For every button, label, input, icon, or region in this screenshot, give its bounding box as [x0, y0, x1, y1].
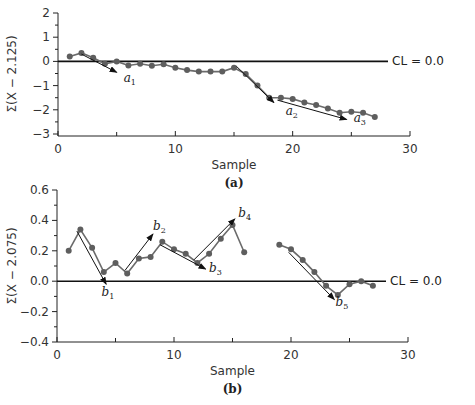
data-point: [208, 69, 214, 75]
data-point: [231, 65, 237, 71]
annotation-label: b3: [209, 261, 222, 277]
y-tick-label: −3: [32, 127, 50, 141]
data-point: [172, 65, 178, 71]
y-tick-label: 0.4: [30, 213, 49, 227]
y-tick-label: −0.4: [20, 335, 49, 349]
data-point: [66, 248, 72, 254]
x-axis-title: Sample: [212, 158, 257, 172]
annotation-arrow: [77, 231, 106, 284]
data-point: [196, 69, 202, 75]
data-point: [77, 227, 83, 233]
chart-canvas: 210−1−2−30102030Sample(a)Σ(X − 2.125)CL …: [0, 0, 475, 405]
y-tick-label: 2: [42, 6, 50, 20]
chart-panel-b: 0.60.40.20.0−0.2−0.40102030Sample(b)Σ(X …: [5, 183, 442, 396]
data-point: [149, 63, 155, 69]
y-tick-label: 0: [42, 54, 50, 68]
x-tick-label: 10: [168, 142, 183, 156]
annotation-label: b5: [335, 295, 348, 311]
data-point: [243, 71, 249, 77]
x-tick-label: 20: [285, 142, 300, 156]
panel-label: (b): [223, 382, 243, 396]
annotation-arrow: [160, 245, 206, 269]
y-tick-label: −1: [32, 79, 50, 93]
data-point: [89, 245, 95, 251]
x-tick-label: 10: [166, 348, 181, 362]
data-point: [148, 254, 154, 260]
x-tick-label: 30: [402, 142, 417, 156]
x-tick-label: 0: [54, 142, 62, 156]
data-point: [113, 260, 119, 266]
data-point: [311, 269, 317, 275]
data-point: [337, 110, 343, 116]
cusum-figure: 210−1−2−30102030Sample(a)Σ(X − 2.125)CL …: [0, 0, 475, 405]
center-line-label: CL = 0.0: [392, 54, 444, 68]
chart-panel-a: 210−1−2−30102030Sample(a)Σ(X − 2.125)CL …: [5, 6, 444, 190]
data-point: [206, 251, 212, 257]
data-point: [347, 281, 353, 287]
data-point: [219, 69, 225, 75]
data-point: [360, 110, 366, 116]
y-tick-label: 1: [42, 30, 50, 44]
data-point: [137, 61, 143, 67]
x-tick-label: 20: [283, 348, 298, 362]
annotation-arrow: [194, 219, 235, 260]
center-line-label: CL = 0.0: [390, 274, 442, 288]
annotation-label: a2: [286, 104, 298, 120]
data-point: [288, 246, 294, 252]
y-axis-title: Σ(X − 2.075): [5, 227, 19, 304]
annotation-arrow: [125, 234, 153, 270]
data-point: [125, 63, 131, 69]
data-point: [301, 100, 307, 106]
annotation-label: b1: [101, 285, 114, 301]
data-point: [290, 96, 296, 102]
data-point: [241, 249, 247, 255]
data-point: [183, 251, 189, 257]
data-point: [372, 114, 378, 120]
data-point: [300, 257, 306, 263]
panel-label: (a): [224, 176, 243, 190]
data-point: [358, 278, 364, 284]
y-tick-label: 0.2: [30, 244, 49, 258]
y-axis-title: Σ(X − 2.125): [5, 35, 19, 112]
x-axis-title: Sample: [210, 364, 255, 378]
data-point: [323, 283, 329, 289]
annotation-label: b2: [153, 219, 166, 235]
data-point: [184, 67, 190, 73]
x-tick-label: 0: [53, 348, 61, 362]
data-point: [278, 95, 284, 101]
data-point: [67, 54, 73, 60]
y-tick-label: 0.6: [30, 183, 49, 197]
data-point: [370, 283, 376, 289]
data-point: [313, 102, 319, 108]
annotation-arrow: [289, 252, 335, 299]
data-point: [159, 239, 165, 245]
y-tick-label: −2: [32, 103, 50, 117]
data-point: [114, 58, 120, 64]
data-point: [254, 83, 260, 89]
y-tick-label: −0.2: [20, 305, 49, 319]
data-point: [276, 242, 282, 248]
annotation-label: a1: [124, 71, 136, 87]
data-point: [161, 61, 167, 67]
data-point: [218, 236, 224, 242]
annotation-arrow: [236, 66, 274, 102]
annotation-label: b4: [238, 206, 251, 222]
y-tick-label: 0.0: [30, 274, 49, 288]
data-point: [325, 106, 331, 112]
data-point: [136, 255, 142, 261]
data-point: [124, 271, 130, 277]
x-tick-label: 30: [400, 348, 415, 362]
data-point: [101, 269, 107, 275]
